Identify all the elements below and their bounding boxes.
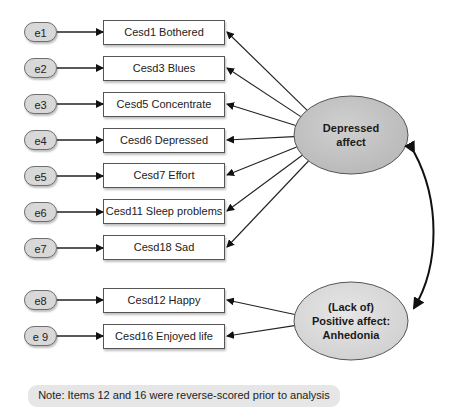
error-term: e5 xyxy=(24,166,57,186)
error-term: e8 xyxy=(24,290,57,310)
footnote: Note: Items 12 and 16 were reverse-score… xyxy=(28,385,340,407)
loading-arrow xyxy=(227,161,309,247)
error-term: e3 xyxy=(24,94,57,114)
loading-arrow xyxy=(227,32,307,110)
error-term: e 9 xyxy=(24,326,57,346)
loading-arrow xyxy=(227,300,295,315)
factor-label-line: affect xyxy=(336,135,365,149)
error-term: e2 xyxy=(24,58,57,78)
indicator-box: Cesd11 Sleep problems xyxy=(103,199,225,224)
factor-label-line: Depressed xyxy=(323,121,379,135)
error-term: e7 xyxy=(24,238,57,258)
indicator-box: Cesd6 Depressed xyxy=(103,128,225,153)
error-term: e4 xyxy=(24,130,57,150)
loading-arrow xyxy=(227,68,301,117)
indicator-box: Cesd1 Bothered xyxy=(103,20,225,45)
loading-arrow xyxy=(227,155,302,211)
loading-arrow xyxy=(227,326,294,336)
indicator-box: Cesd3 Blues xyxy=(103,56,225,81)
factor-label-line: (Lack of) xyxy=(328,300,374,314)
factor-label-line: Anhedonia xyxy=(323,328,380,342)
loading-arrow xyxy=(227,137,294,140)
indicator-box: Cesd5 Concentrate xyxy=(103,92,225,117)
positive-affect-label: (Lack of) Positive affect: Anhedonia xyxy=(296,293,406,349)
indicator-box: Cesd7 Effort xyxy=(103,163,225,188)
error-term: e1 xyxy=(24,22,57,42)
indicator-box: Cesd18 Sad xyxy=(103,235,225,260)
indicator-box: Cesd16 Enjoyed life xyxy=(103,324,225,349)
loading-arrow xyxy=(227,147,297,175)
error-term: e6 xyxy=(24,202,57,222)
covariance-arrow xyxy=(414,152,434,308)
indicator-box: Cesd12 Happy xyxy=(103,288,225,313)
factor-label-line: Positive affect: xyxy=(312,314,390,328)
depressed-affect-label: Depressed affect xyxy=(300,110,402,160)
loading-arrow xyxy=(227,104,296,126)
